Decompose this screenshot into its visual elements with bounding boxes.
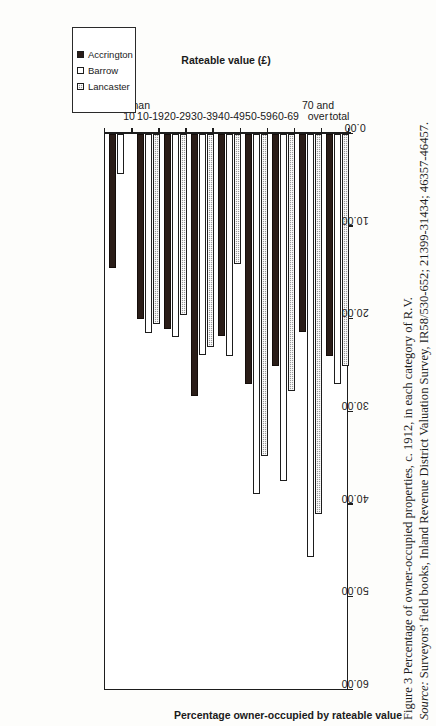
bar-barrow: [253, 134, 260, 494]
legend-item: Barrow: [77, 65, 135, 76]
bar-barrow: [226, 134, 233, 356]
bar-group: [294, 134, 321, 690]
category-label: 20-29: [164, 111, 191, 122]
legend-label: Accrington: [88, 49, 133, 60]
bars-layer: [104, 134, 348, 690]
category-tick: [104, 128, 105, 134]
figure-rotated-canvas: 0.0010.0020.0030.0040.0050.0060.00 Perce…: [42, 0, 394, 726]
category-tick: [294, 128, 295, 134]
category-label: 50-59: [245, 111, 272, 122]
bar-barrow: [199, 134, 206, 355]
bar-accrington: [164, 134, 171, 329]
bar-group: [267, 134, 294, 690]
category-tick: [158, 128, 159, 134]
bar-accrington: [326, 134, 333, 356]
legend-swatch-accrington: [77, 51, 84, 58]
category-tick: [240, 128, 241, 134]
bar-accrington: [299, 134, 306, 332]
category-tick: [131, 128, 132, 134]
legend-label: Lancaster: [88, 81, 130, 92]
value-tick-label: 30.00: [341, 400, 368, 412]
bar-group: [240, 134, 267, 690]
bar-barrow: [334, 134, 341, 384]
bar-barrow: [117, 134, 124, 174]
bar-lancaster: [342, 134, 349, 366]
legend-item: Accrington: [77, 49, 135, 60]
caption-line-title: Figure 3 Percentage of owner-occupied pr…: [401, 297, 416, 720]
bar-group: [158, 134, 185, 690]
legend-item: Lancaster: [77, 81, 135, 92]
chart-legend: AccringtonBarrowLancaster: [72, 27, 136, 113]
category-axis-title: Rateable value (£): [104, 54, 348, 66]
category-label: 10-19: [137, 111, 164, 122]
bar-group: [131, 134, 158, 690]
bar-barrow: [145, 134, 152, 333]
value-tick-label: 60.00: [341, 678, 368, 690]
bar-barrow: [280, 134, 287, 481]
legend-label: Barrow: [88, 65, 118, 76]
caption-source-text: Surveyors' field books, Inland Revenue D…: [417, 122, 431, 681]
bar-group: [185, 134, 212, 690]
bar-group: [104, 134, 131, 690]
bar-barrow: [307, 134, 314, 557]
category-label: 40-49: [218, 111, 245, 122]
category-tick: [321, 128, 322, 134]
caption-line-source: Source: Surveyors' field books, Inland R…: [417, 122, 432, 720]
category-label: total: [330, 111, 350, 122]
bar-accrington: [109, 134, 116, 268]
legend-swatch-lancaster: [77, 83, 84, 90]
caption-source-label: Source:: [417, 681, 431, 720]
category-tick: [348, 128, 349, 134]
value-tick-label: 20.00: [341, 307, 368, 319]
category-label: 60-69: [272, 111, 299, 122]
value-axis-title: Percentage owner-occupied by rateable va…: [166, 709, 410, 721]
value-tick-label: 50.00: [341, 585, 368, 597]
bar-accrington: [245, 134, 252, 384]
category-label: 30-39: [191, 111, 218, 122]
bar-accrington: [137, 134, 144, 319]
bar-group: [212, 134, 239, 690]
figure-caption-block: Figure 3 Percentage of owner-occupied pr…: [388, 0, 432, 726]
bar-accrington: [272, 134, 279, 366]
category-tick: [185, 128, 186, 134]
bar-accrington: [218, 134, 225, 336]
legend-swatch-barrow: [77, 67, 84, 74]
category-tick: [212, 128, 213, 134]
bar-accrington: [191, 134, 198, 396]
value-tick-label: 40.00: [341, 493, 368, 505]
value-tick-label: 10.00: [341, 215, 368, 227]
category-tick: [267, 128, 268, 134]
bar-barrow: [172, 134, 179, 337]
